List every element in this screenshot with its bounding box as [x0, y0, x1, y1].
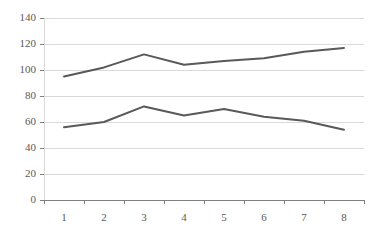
y-axis-tick-label: 140	[2, 12, 36, 23]
x-axis-tick-label: 8	[329, 212, 359, 223]
y-axis-tick-label: 60	[2, 116, 36, 127]
y-axis-tick-label: 100	[2, 64, 36, 75]
x-axis-tick-label: 5	[209, 212, 239, 223]
y-axis-tick-label: 80	[2, 90, 36, 101]
chart-canvas	[0, 0, 380, 238]
y-axis-tick-label: 0	[2, 194, 36, 205]
y-axis-tick-label: 120	[2, 38, 36, 49]
y-axis-tick-label: 20	[2, 168, 36, 179]
y-axis-tick-label: 40	[2, 142, 36, 153]
x-axis-tick-label: 4	[169, 212, 199, 223]
x-axis-tick-label: 6	[249, 212, 279, 223]
x-axis-tick-label: 2	[89, 212, 119, 223]
x-axis-tick-label: 3	[129, 212, 159, 223]
series-line-1	[64, 48, 344, 77]
x-axis-tick-label: 1	[49, 212, 79, 223]
line-chart: 020406080100120140 12345678	[0, 0, 380, 238]
series-line-2	[64, 106, 344, 129]
x-axis-tick-label: 7	[289, 212, 319, 223]
